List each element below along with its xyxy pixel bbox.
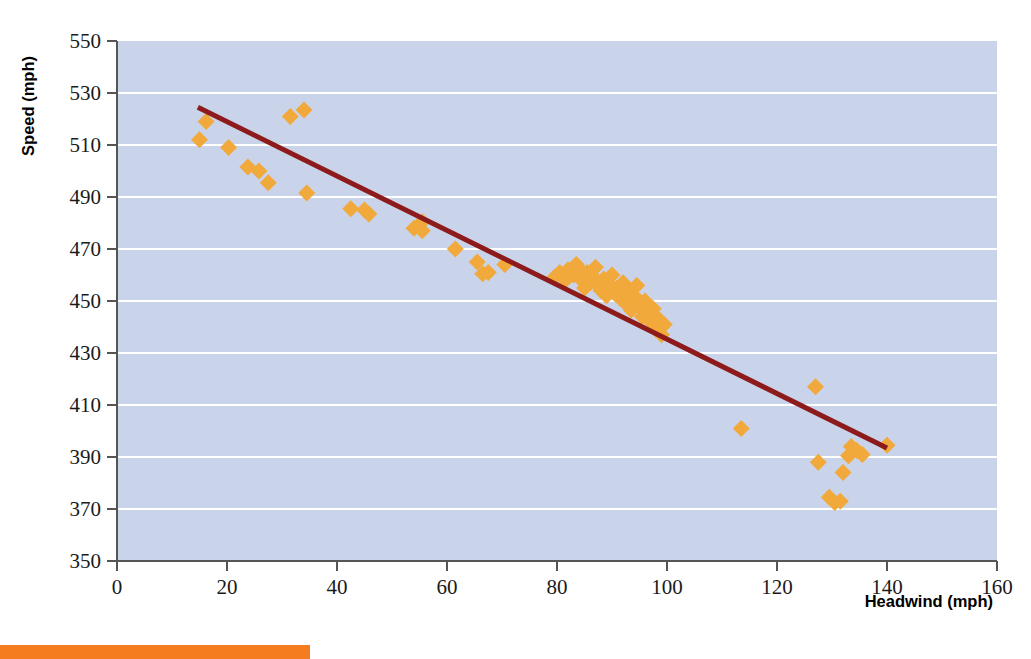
y-tick-label: 470 [70,237,102,261]
x-tick-label: 20 [217,575,238,599]
y-tick-label: 530 [70,81,102,105]
x-tick-label: 100 [651,575,683,599]
y-tick-label: 350 [70,549,102,573]
scatter-plot: 020406080100120140160 350370390410430450… [0,0,1031,659]
y-axis-ticks [107,41,117,561]
y-tick-label: 390 [70,445,102,469]
x-tick-label: 40 [327,575,348,599]
footer-accent-bar [0,645,310,659]
chart-figure: 020406080100120140160 350370390410430450… [0,0,1031,659]
y-tick-label: 430 [70,341,102,365]
x-tick-label: 80 [547,575,568,599]
y-tick-label: 450 [70,289,102,313]
x-tick-label: 60 [437,575,458,599]
x-tick-label: 0 [112,575,123,599]
x-axis-title: Headwind (mph) [865,592,993,610]
y-tick-label: 410 [70,393,102,417]
y-tick-label: 490 [70,185,102,209]
x-axis-ticks [117,561,997,571]
y-tick-label: 370 [70,497,102,521]
y-axis-tick-labels: 350370390410430450470490510530550 [70,29,102,573]
y-tick-label: 550 [70,29,102,53]
x-tick-label: 120 [761,575,793,599]
y-axis-title: Speed (mph) [19,56,37,156]
y-tick-label: 510 [70,133,102,157]
